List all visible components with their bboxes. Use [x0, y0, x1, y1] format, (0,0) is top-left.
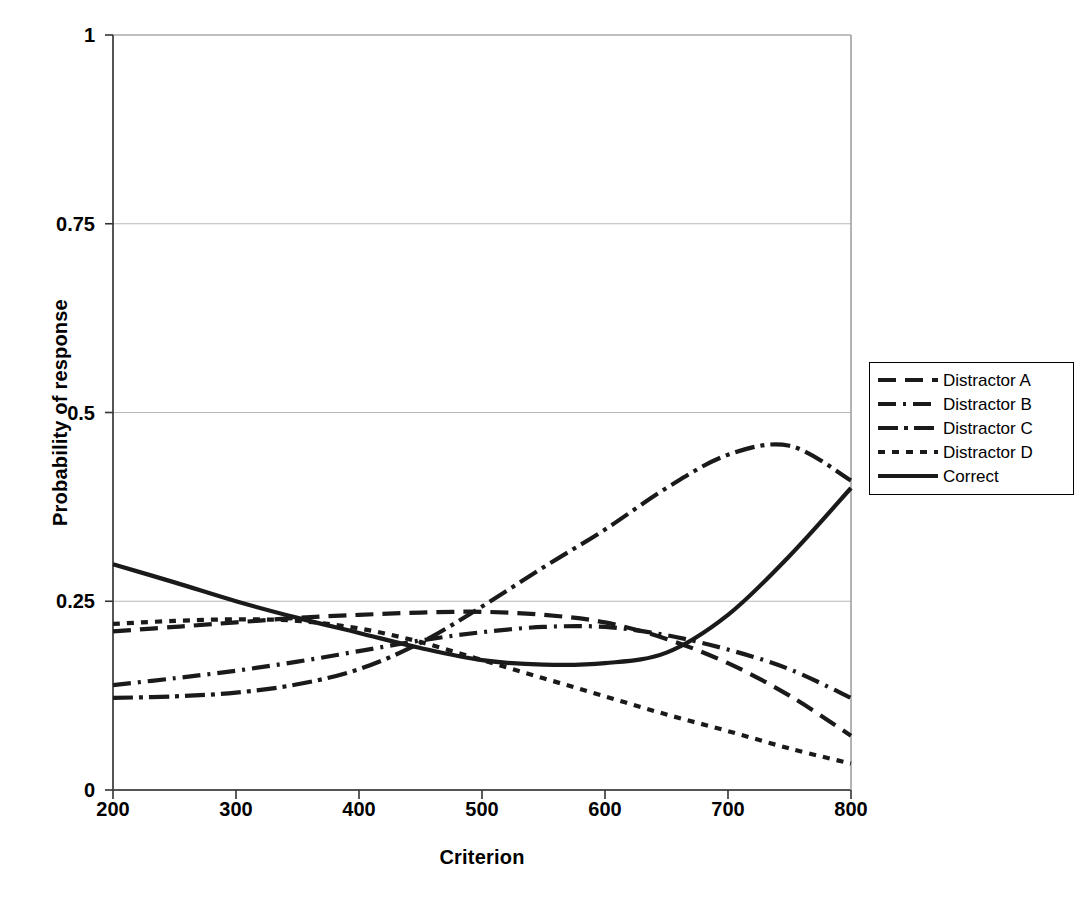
series-line-correct — [113, 488, 851, 665]
legend-label: Distractor A — [943, 372, 1031, 389]
legend-item-distractor-b[interactable]: Distractor B — [870, 392, 1073, 416]
legend-box: Distractor ADistractor BDistractor CDist… — [869, 362, 1074, 495]
legend-item-distractor-a[interactable]: Distractor A — [870, 368, 1073, 392]
legend-label: Distractor B — [943, 396, 1032, 413]
legend-swatch-long-dash-icon — [877, 371, 939, 389]
gridlines — [113, 35, 851, 790]
legend-item-distractor-d[interactable]: Distractor D — [870, 440, 1073, 464]
legend-label: Correct — [943, 468, 999, 485]
legend-swatch-dotted-icon — [877, 443, 939, 461]
legend-item-correct[interactable]: Correct — [870, 464, 1073, 488]
data-series-curves — [113, 444, 851, 763]
legend-item-distractor-c[interactable]: Distractor C — [870, 416, 1073, 440]
legend-swatch-solid-icon — [877, 467, 939, 485]
legend-label: Distractor C — [943, 420, 1033, 437]
chart-figure: Probability of response 00.250.50.751 20… — [0, 0, 1086, 902]
legend-swatch-dash-dot-long-icon — [877, 419, 939, 437]
series-line-distractor-d — [113, 619, 851, 763]
axis-ticks — [105, 35, 851, 799]
legend-label: Distractor D — [943, 444, 1033, 461]
legend-swatch-dash-dot-icon — [877, 395, 939, 413]
